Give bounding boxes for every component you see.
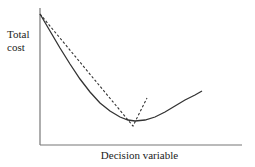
- y-axis-label-line-1: Total: [7, 28, 29, 41]
- total-cost-chart: [0, 0, 255, 167]
- x-axis-label: Decision variable: [0, 149, 255, 161]
- y-axis-label: Total cost: [7, 28, 29, 54]
- y-axis-label-line-2: cost: [7, 41, 29, 54]
- total-cost-curve: [40, 14, 202, 121]
- linear-approximation-dashed: [40, 14, 147, 126]
